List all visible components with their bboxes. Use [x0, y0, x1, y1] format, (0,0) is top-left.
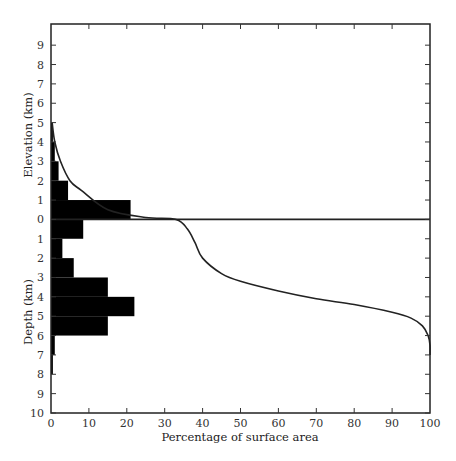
- y-axis-label-elevation: Elevation (km): [21, 92, 35, 177]
- y-tick-label: 0: [37, 213, 44, 226]
- x-tick-label: 50: [234, 417, 248, 430]
- y-tick-label: 9: [37, 39, 44, 52]
- y-tick-label: 8: [37, 368, 44, 381]
- histogram-bars: [51, 123, 134, 375]
- y-tick-label: 6: [37, 97, 44, 110]
- y-tick-label: 5: [37, 310, 44, 323]
- hypsometric-curve: [52, 123, 430, 355]
- y-tick-label: 8: [37, 59, 44, 72]
- y-tick-label: 1: [37, 194, 44, 207]
- y-tick-label: 6: [37, 330, 44, 343]
- y-tick-label: 7: [37, 349, 44, 362]
- x-tick-label: 30: [158, 417, 172, 430]
- x-tick-label: 40: [196, 417, 210, 430]
- histogram-bar: [51, 316, 108, 335]
- y-tick-label: 2: [37, 252, 44, 265]
- x-tick-label: 80: [347, 417, 361, 430]
- histogram-bar: [51, 239, 62, 258]
- histogram-bar: [51, 297, 134, 316]
- x-tick-label: 90: [385, 417, 399, 430]
- histogram-bar: [51, 219, 83, 238]
- x-tick-label: 10: [82, 417, 96, 430]
- y-axis-ticks: 987654321012345678910: [30, 39, 430, 420]
- y-tick-label: 2: [37, 175, 44, 188]
- y-tick-label: 7: [37, 78, 44, 91]
- x-axis-ticks: 0102030405060708090100: [48, 24, 441, 430]
- x-tick-label: 70: [309, 417, 323, 430]
- x-tick-label: 20: [120, 417, 134, 430]
- y-tick-label: 5: [37, 117, 44, 130]
- y-tick-label: 3: [37, 155, 44, 168]
- y-tick-label: 10: [30, 407, 44, 420]
- y-tick-label: 9: [37, 388, 44, 401]
- histogram-bar: [51, 181, 68, 200]
- histogram-bar: [51, 258, 74, 277]
- x-axis-label: Percentage of surface area: [161, 430, 318, 444]
- x-tick-label: 100: [420, 417, 441, 430]
- x-tick-label: 0: [48, 417, 55, 430]
- histogram-bar: [51, 200, 131, 219]
- y-tick-label: 4: [37, 291, 44, 304]
- y-tick-label: 1: [37, 233, 44, 246]
- y-tick-label: 3: [37, 271, 44, 284]
- x-tick-label: 60: [271, 417, 285, 430]
- histogram-bar: [51, 277, 108, 296]
- y-tick-label: 4: [37, 136, 44, 149]
- y-axis-label-depth: Depth (km): [21, 279, 35, 345]
- histogram-bar: [51, 161, 59, 180]
- hypsometric-chart: 0102030405060708090100 98765432101234567…: [0, 0, 456, 461]
